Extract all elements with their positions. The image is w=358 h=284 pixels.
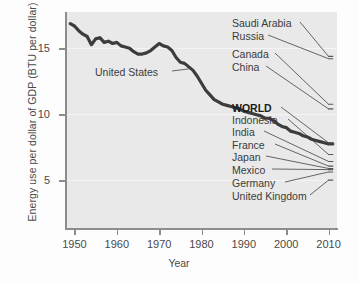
y-tick-label-10: 10	[14, 108, 50, 120]
chart-figure: Energy use per dollar of GDP (BTU per do…	[0, 0, 358, 284]
leader-line-germany	[285, 172, 329, 182]
leader-line-mexico	[272, 169, 329, 170]
x-tick-1980	[202, 229, 204, 235]
x-tick-1950	[74, 229, 76, 235]
annotation-indonesia: Indonesia	[232, 115, 278, 126]
y-tick-15	[59, 48, 66, 50]
annotation-united-kingdom: United Kingdom	[232, 191, 307, 202]
x-tick-1990	[244, 229, 246, 235]
x-tick-label-2010: 2010	[307, 238, 351, 250]
series-line-united-states	[70, 24, 333, 144]
y-axis-line	[65, 12, 67, 229]
y-tick-label-5: 5	[14, 174, 50, 186]
annotation-india: India	[232, 127, 255, 138]
x-tick-1960	[117, 229, 119, 235]
x-tick-label-1990: 1990	[222, 238, 266, 250]
annotation-china: China	[232, 62, 259, 73]
annotation-russia: Russia	[232, 31, 264, 42]
leader-line-canada	[275, 53, 329, 104]
annotation-france: France	[232, 140, 265, 151]
annotation-japan: Japan	[232, 152, 261, 163]
x-tick-label-1970: 1970	[137, 238, 181, 250]
annotation-germany: Germany	[232, 178, 275, 189]
annotation-canada: Canada	[232, 49, 269, 60]
x-tick-label-1950: 1950	[52, 238, 96, 250]
annotation-saudi-arabia: Saudi Arabia	[232, 18, 292, 29]
annotation-mexico: Mexico	[232, 165, 265, 176]
y-tick-5	[59, 180, 66, 182]
x-tick-2010	[329, 229, 331, 235]
y-tick-10	[59, 114, 66, 116]
leader-line-united-states	[172, 69, 189, 71]
leader-line-united-kingdom	[310, 180, 329, 195]
leader-line-china	[266, 66, 329, 109]
annotation-world: WORLD	[232, 103, 272, 114]
x-axis-title: Year	[0, 257, 358, 269]
x-tick-label-2000: 2000	[264, 238, 308, 250]
y-tick-label-15: 15	[14, 42, 50, 54]
leader-line-saudi-arabia	[300, 22, 329, 56]
x-tick-label-1980: 1980	[180, 238, 224, 250]
x-tick-1970	[159, 229, 161, 235]
x-tick-label-1960: 1960	[95, 238, 139, 250]
annotation-united-states: United States	[95, 67, 158, 78]
x-tick-2000	[286, 229, 288, 235]
